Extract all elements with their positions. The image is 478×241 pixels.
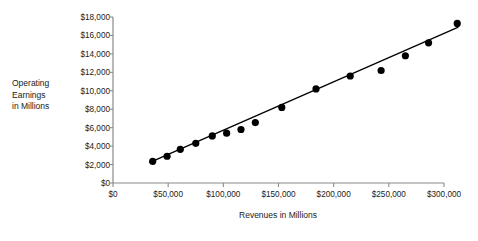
data-point (192, 140, 199, 147)
x-tick-label: $100,000 (206, 190, 240, 199)
data-point (252, 119, 259, 126)
data-point (425, 39, 432, 46)
data-point (454, 20, 461, 27)
data-point (402, 52, 409, 59)
data-point (237, 126, 244, 133)
data-point (223, 130, 230, 137)
x-axis-title: Revenues in Millions (113, 210, 443, 220)
plot-area (0, 0, 478, 241)
data-point (347, 72, 354, 79)
x-tick-label: $50,000 (153, 190, 183, 199)
data-point (163, 153, 170, 160)
data-point (209, 132, 216, 139)
data-point (177, 146, 184, 153)
x-tick-label: $200,000 (317, 190, 351, 199)
x-tick-label: $250,000 (372, 190, 406, 199)
data-point (312, 85, 319, 92)
x-tick-label: $0 (108, 190, 117, 199)
data-point (278, 104, 285, 111)
x-axis-ticks (113, 183, 444, 187)
x-tick-label: $300,000 (427, 190, 461, 199)
x-tick-label: $150,000 (261, 190, 295, 199)
data-point (378, 67, 385, 74)
axis-lines (113, 17, 444, 183)
scatter-chart: Operating Earnings in Millions $0$2,000$… (0, 0, 478, 241)
data-point-group (149, 20, 461, 165)
data-point (149, 158, 156, 165)
